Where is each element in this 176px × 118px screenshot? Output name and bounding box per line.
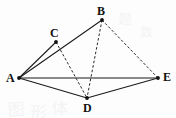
vertex-point-e xyxy=(156,76,160,80)
vertex-point-b xyxy=(100,18,104,22)
edge-group xyxy=(19,20,158,98)
vertex-label-d: D xyxy=(83,102,92,114)
edge-c-d xyxy=(56,42,87,98)
edge-b-d xyxy=(87,20,102,98)
edge-d-e xyxy=(87,78,158,98)
edge-a-c xyxy=(19,42,56,78)
edge-a-d xyxy=(19,78,87,98)
geometry-figure: 图形体题数 ABCDE xyxy=(0,0,176,118)
edge-b-e xyxy=(102,20,158,78)
vertex-point-d xyxy=(85,96,89,100)
vertex-point-c xyxy=(54,40,58,44)
vertex-label-b: B xyxy=(97,5,105,17)
vertex-label-c: C xyxy=(50,27,59,39)
vertex-point-a xyxy=(17,76,21,80)
vertex-label-a: A xyxy=(6,72,15,84)
vertex-label-e: E xyxy=(163,71,171,83)
edge-a-b xyxy=(19,20,102,78)
